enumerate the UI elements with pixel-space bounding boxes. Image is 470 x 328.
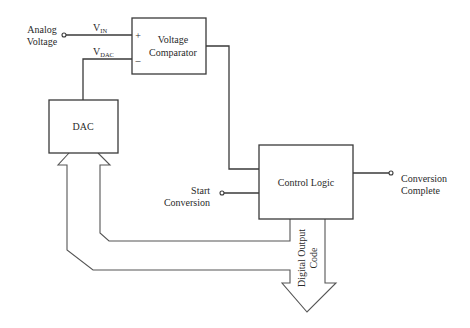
vin-label: VIN (93, 22, 107, 34)
comparator-label-line1: Voltage (158, 34, 189, 45)
start-conversion-terminal[interactable] (220, 191, 224, 195)
svg-text:Code: Code (308, 247, 319, 269)
dac-label: DAC (72, 121, 93, 132)
comparator-label-line2: Comparator (149, 47, 197, 58)
analog-voltage-label-line2: Voltage (27, 36, 58, 47)
analog-voltage-label-line1: Analog (27, 24, 56, 35)
conversion-complete-label-line2: Complete (401, 185, 440, 196)
comparator-output-wire (206, 46, 259, 169)
control-logic-block: Control Logic (259, 145, 353, 219)
start-conversion-label-line2: Conversion (164, 197, 210, 208)
conversion-complete-terminal[interactable] (389, 171, 393, 175)
minus-input-symbol: – (135, 55, 142, 66)
analog-voltage-terminal[interactable] (62, 33, 66, 37)
voltage-comparator-block: Voltage Comparator + – (132, 18, 206, 74)
control-logic-label: Control Logic (278, 177, 335, 188)
plus-input-symbol: + (135, 30, 141, 41)
vdac-label: VDAC (93, 46, 114, 58)
dac-block: DAC (49, 100, 118, 153)
svg-text:Digital Output: Digital Output (296, 229, 307, 287)
conversion-complete-label-line1: Conversion (401, 173, 447, 184)
adc-block-diagram: Voltage Comparator + – DAC Control Logic… (0, 0, 470, 328)
vdac-wire (83, 59, 132, 100)
start-conversion-label-line1: Start (191, 185, 210, 196)
